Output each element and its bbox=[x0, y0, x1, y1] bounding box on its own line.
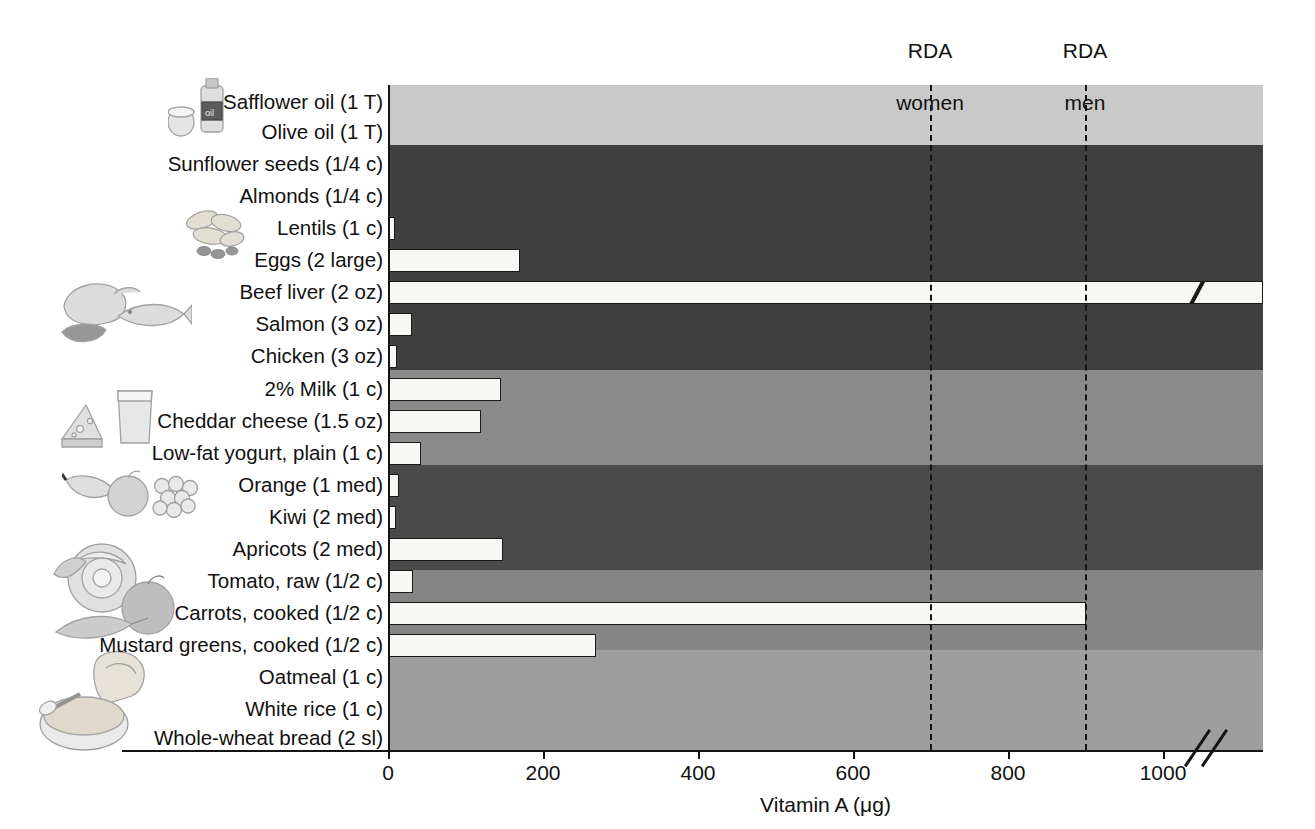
bar-row-carrots bbox=[388, 597, 1263, 630]
bar-salmon bbox=[388, 313, 412, 336]
category-label-lentils: Lentils (1 c) bbox=[277, 211, 383, 244]
bar-mustard-greens bbox=[388, 634, 596, 657]
x-axis-break-mark bbox=[1188, 728, 1244, 768]
bar-row-salmon bbox=[388, 308, 1263, 341]
rda-men-label-line1: RDA bbox=[1025, 38, 1145, 64]
x-tick-label-600: 600 bbox=[808, 761, 898, 785]
rda-women-label-line1: RDA bbox=[870, 38, 990, 64]
bar-carrots bbox=[388, 602, 1086, 625]
bar-row-cheddar-cheese bbox=[388, 405, 1263, 438]
x-tick-400 bbox=[698, 750, 700, 759]
bar-row-eggs bbox=[388, 244, 1263, 277]
category-label-safflower-oil: Safflower oil (1 T) bbox=[223, 85, 383, 118]
category-label-sunflower-seeds: Sunflower seeds (1/4 c) bbox=[168, 147, 383, 180]
category-label-milk: 2% Milk (1 c) bbox=[265, 372, 383, 405]
bar-row-whole-wheat-bread bbox=[388, 720, 1263, 753]
rda-women-line bbox=[930, 85, 932, 750]
bar-row-chicken bbox=[388, 340, 1263, 373]
category-label-yogurt: Low-fat yogurt, plain (1 c) bbox=[152, 436, 383, 469]
bar-row-yogurt bbox=[388, 437, 1263, 470]
category-label-beef-liver: Beef liver (2 oz) bbox=[239, 275, 383, 308]
category-label-chicken: Chicken (3 oz) bbox=[251, 339, 383, 372]
rda-women-label: RDA women bbox=[870, 12, 990, 142]
category-label-almonds: Almonds (1/4 c) bbox=[239, 179, 383, 212]
bar-cheddar-cheese bbox=[388, 410, 481, 433]
bar-eggs bbox=[388, 249, 520, 272]
x-axis-line bbox=[122, 750, 1263, 752]
bar-row-oatmeal bbox=[388, 659, 1263, 692]
bar-milk bbox=[388, 378, 501, 401]
category-label-salmon: Salmon (3 oz) bbox=[255, 307, 383, 340]
category-label-column: Safflower oil (1 T) Olive oil (1 T) Sunf… bbox=[0, 85, 383, 750]
bar-beef-liver bbox=[388, 281, 1263, 304]
x-tick-label-200: 200 bbox=[498, 761, 588, 785]
bar-apricots bbox=[388, 538, 503, 561]
x-tick-label-400: 400 bbox=[653, 761, 743, 785]
bar-row-lentils bbox=[388, 212, 1263, 245]
bar-row-beef-liver bbox=[388, 276, 1263, 309]
bar-yogurt bbox=[388, 442, 421, 465]
bar-break-mark-beef-liver bbox=[1184, 281, 1210, 304]
vitamin-a-bar-chart: oil bbox=[0, 0, 1315, 829]
bar-row-almonds bbox=[388, 180, 1263, 213]
bar-row-mustard-greens bbox=[388, 629, 1263, 662]
bar-row-tomato bbox=[388, 565, 1263, 598]
x-tick-600 bbox=[853, 750, 855, 759]
x-tick-1000 bbox=[1163, 750, 1165, 759]
category-label-apricots: Apricots (2 med) bbox=[233, 532, 383, 565]
rda-men-label-line2: men bbox=[1025, 90, 1145, 116]
rda-men-line bbox=[1085, 85, 1087, 750]
x-tick-label-800: 800 bbox=[963, 761, 1053, 785]
rda-women-label-line2: women bbox=[870, 90, 990, 116]
category-label-carrots: Carrots, cooked (1/2 c) bbox=[175, 596, 384, 629]
x-tick-800 bbox=[1008, 750, 1010, 759]
category-label-kiwi: Kiwi (2 med) bbox=[269, 500, 383, 533]
x-tick-0 bbox=[388, 750, 390, 759]
bar-row-orange bbox=[388, 469, 1263, 502]
category-label-tomato: Tomato, raw (1/2 c) bbox=[208, 564, 383, 597]
category-label-eggs: Eggs (2 large) bbox=[254, 243, 383, 276]
x-tick-label-0: 0 bbox=[343, 761, 433, 785]
x-tick-200 bbox=[543, 750, 545, 759]
category-label-cheddar-cheese: Cheddar cheese (1.5 oz) bbox=[157, 404, 383, 437]
bar-tomato bbox=[388, 570, 413, 593]
category-label-oatmeal: Oatmeal (1 c) bbox=[259, 660, 383, 693]
x-axis-title: Vitamin A (μg) bbox=[388, 793, 1263, 817]
category-label-orange: Orange (1 med) bbox=[238, 468, 383, 501]
bar-row-apricots bbox=[388, 533, 1263, 566]
y-axis-line bbox=[388, 85, 390, 750]
bar-row-sunflower-seeds bbox=[388, 148, 1263, 181]
rda-men-label: RDA men bbox=[1025, 12, 1145, 142]
category-label-olive-oil: Olive oil (1 T) bbox=[261, 115, 383, 148]
category-label-mustard-greens: Mustard greens, cooked (1/2 c) bbox=[99, 628, 383, 661]
bar-row-milk bbox=[388, 373, 1263, 406]
bar-row-kiwi bbox=[388, 501, 1263, 534]
